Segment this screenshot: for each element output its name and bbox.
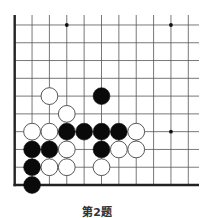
- white-stone: [41, 123, 58, 140]
- white-stone: [41, 88, 58, 105]
- black-stone: [93, 141, 110, 158]
- star-point: [169, 23, 173, 27]
- star-point: [65, 23, 69, 27]
- white-stone: [110, 141, 127, 158]
- black-stone: [110, 123, 127, 140]
- black-stone: [24, 141, 41, 158]
- white-stone: [93, 159, 110, 176]
- black-stone: [93, 123, 110, 140]
- problem-caption: 第2题: [0, 203, 194, 218]
- black-stone: [58, 123, 75, 140]
- black-stone: [76, 123, 93, 140]
- black-stone: [24, 177, 41, 194]
- white-stone: [128, 141, 145, 158]
- black-stone: [24, 159, 41, 176]
- white-stone: [24, 123, 41, 140]
- white-stone: [58, 141, 75, 158]
- white-stone: [128, 123, 145, 140]
- white-stone: [58, 159, 75, 176]
- go-board: [0, 0, 212, 218]
- white-stone: [41, 159, 58, 176]
- white-stone: [58, 105, 75, 122]
- black-stone: [41, 141, 58, 158]
- black-stone: [93, 88, 110, 105]
- star-point: [169, 130, 173, 134]
